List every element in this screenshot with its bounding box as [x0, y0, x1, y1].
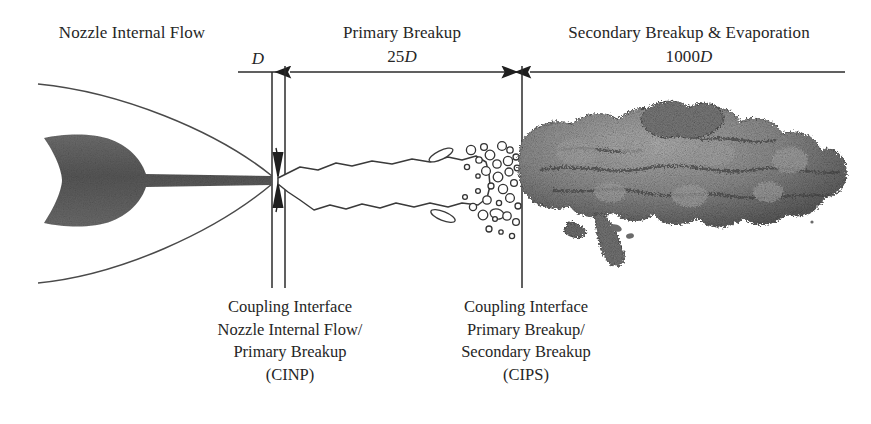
diagram-graphics [0, 0, 871, 424]
nozzle-body [44, 135, 272, 227]
spray-breakup-diagram: Nozzle Internal Flow D Primary Breakup 2… [0, 0, 871, 424]
spray-cloud [519, 101, 847, 266]
liquid-core-shape [278, 156, 490, 210]
